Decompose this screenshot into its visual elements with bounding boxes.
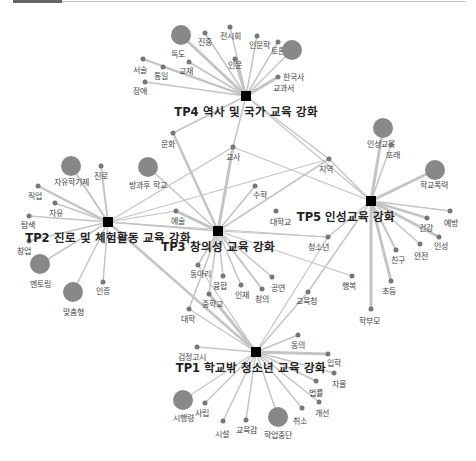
node-dot bbox=[389, 143, 394, 148]
term-node: 친구 bbox=[391, 248, 405, 266]
node-label: 개선 bbox=[315, 408, 329, 418]
node-dot bbox=[276, 40, 281, 45]
node-dot bbox=[143, 80, 148, 85]
node-label: 교과서 bbox=[273, 84, 294, 93]
hub-square bbox=[103, 217, 113, 227]
node-label: 한국사 bbox=[283, 73, 305, 82]
node-dot bbox=[30, 254, 50, 274]
edge bbox=[256, 352, 328, 354]
term-node: 취소 bbox=[293, 406, 307, 427]
edge bbox=[197, 347, 256, 352]
node-dot bbox=[369, 307, 374, 312]
node-dot bbox=[448, 209, 453, 214]
term-node: 진로 bbox=[94, 164, 108, 182]
edge bbox=[218, 231, 272, 277]
term-node: 인재 bbox=[235, 283, 249, 301]
node-label: 취소 bbox=[293, 417, 307, 426]
node-dot bbox=[317, 400, 322, 405]
term-node: 시설 bbox=[215, 419, 229, 440]
node-dot bbox=[244, 418, 249, 423]
node-dot bbox=[326, 235, 331, 240]
edge bbox=[108, 147, 233, 222]
node-dot bbox=[138, 157, 158, 177]
term-node: 대학교 bbox=[270, 209, 291, 228]
node-dot bbox=[63, 282, 83, 302]
node-dot bbox=[99, 164, 104, 169]
node-label: 인성 bbox=[434, 241, 448, 251]
node-dot bbox=[282, 40, 302, 60]
node-label: 서술 bbox=[133, 65, 147, 75]
node-label: 학업중단 bbox=[264, 430, 293, 440]
node-label: 교사 bbox=[226, 153, 241, 162]
node-label: 수학 bbox=[253, 190, 268, 200]
edge bbox=[233, 96, 246, 147]
node-label: 교재 bbox=[179, 67, 193, 76]
node-dot bbox=[207, 292, 212, 297]
node-dot bbox=[300, 406, 305, 411]
node-dot bbox=[270, 275, 275, 280]
node-dot bbox=[141, 57, 146, 62]
node-dot bbox=[327, 157, 332, 162]
term-node: 사립 bbox=[195, 401, 209, 419]
term-node: 동아리 bbox=[190, 263, 211, 280]
node-dot bbox=[260, 287, 265, 292]
topic-hub-tp4: TP4 역사 및 국가 교육 강화 bbox=[174, 91, 317, 119]
term-node: 인증 bbox=[96, 280, 110, 297]
node-label: 예술 bbox=[171, 216, 185, 226]
node-label: 통일 bbox=[154, 72, 168, 81]
term-node: 대학 bbox=[181, 307, 196, 325]
term-node: 초등 bbox=[382, 279, 396, 297]
node-label: 중학교 bbox=[202, 299, 223, 309]
node-dot bbox=[203, 401, 208, 406]
term-node: 서술 bbox=[133, 57, 147, 76]
node-dot bbox=[326, 352, 331, 357]
node-dot bbox=[173, 390, 193, 410]
term-node: 중학교 bbox=[202, 292, 223, 310]
term-node: 개선 bbox=[315, 400, 329, 419]
node-dot bbox=[373, 118, 393, 138]
node-label: 장애 bbox=[133, 86, 147, 96]
node-dot bbox=[425, 160, 445, 180]
node-dot bbox=[425, 216, 430, 221]
node-dot bbox=[228, 25, 233, 30]
node-label: 자유학기제 bbox=[54, 177, 89, 187]
node-dot bbox=[274, 209, 279, 214]
term-node: 시행령 bbox=[173, 390, 194, 423]
term-node: 수학 bbox=[253, 184, 269, 201]
node-dot bbox=[203, 31, 208, 36]
node-label: 학부모 bbox=[359, 316, 380, 326]
node-label: 방과후 학교 bbox=[129, 180, 167, 190]
node-label: 창의 bbox=[255, 294, 269, 304]
term-node: 예방 bbox=[444, 209, 459, 229]
term-node: 입학 bbox=[326, 352, 343, 369]
edge bbox=[189, 309, 256, 352]
node-label: 자유 bbox=[49, 209, 63, 218]
term-node: 학업중단 bbox=[264, 407, 293, 440]
node-dot bbox=[394, 248, 399, 253]
node-label: 멘토링 bbox=[30, 279, 51, 289]
node-label: 전시회 bbox=[220, 31, 241, 41]
term-node: 문화 bbox=[161, 131, 176, 150]
term-node: 직업 bbox=[28, 184, 42, 202]
node-dot bbox=[389, 279, 394, 284]
topic-hub-tp5: TP5 인성교육 강화 bbox=[297, 196, 395, 224]
node-dot bbox=[36, 184, 41, 189]
node-label: 사립 bbox=[195, 409, 209, 418]
term-node: 공연 bbox=[270, 275, 286, 294]
term-node: 교육청 bbox=[296, 290, 317, 307]
node-dot bbox=[296, 333, 301, 338]
node-label: 융합 bbox=[213, 282, 228, 291]
node-dot bbox=[239, 283, 244, 288]
node-dot bbox=[221, 274, 226, 279]
edge bbox=[205, 352, 256, 403]
node-label: 학교폭력 bbox=[420, 180, 448, 190]
node-label: 진로 bbox=[94, 171, 108, 181]
term-node: 교육감 bbox=[236, 418, 258, 436]
node-dot bbox=[350, 274, 355, 279]
node-label: 시설 bbox=[215, 429, 229, 439]
node-label: 입학 bbox=[327, 358, 342, 368]
node-label: 인문 bbox=[228, 60, 242, 70]
node-label: 맞춤형 bbox=[63, 307, 84, 317]
term-node: 진흥 bbox=[198, 31, 212, 48]
node-label: 대학교 bbox=[270, 217, 291, 227]
